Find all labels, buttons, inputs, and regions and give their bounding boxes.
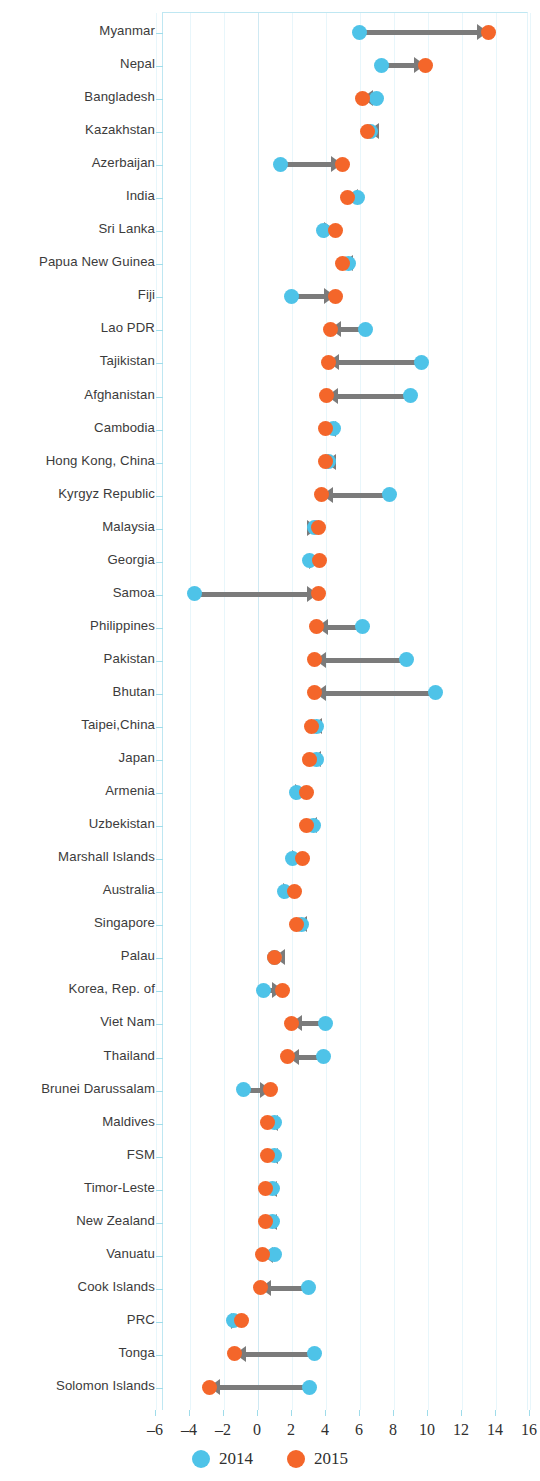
data-point-2015[interactable]: [302, 752, 317, 767]
category-label-afghanistan: Afghanistan: [84, 387, 155, 402]
data-point-2015[interactable]: [260, 1115, 275, 1130]
x-axis-tick-14: [495, 1410, 496, 1416]
data-point-2015[interactable]: [284, 1016, 299, 1031]
data-point-2015[interactable]: [311, 586, 326, 601]
x-axis-tick-4: [325, 1410, 326, 1416]
change-connector: [243, 1352, 315, 1357]
category-label-solomon-islands: Solomon Islands: [56, 1378, 155, 1393]
change-connector: [323, 691, 436, 696]
category-tick: [156, 132, 163, 133]
data-point-2014[interactable]: [352, 25, 367, 40]
category-tick: [156, 694, 163, 695]
x-axis-tick-16: [529, 1410, 530, 1416]
data-point-2015[interactable]: [323, 322, 338, 337]
data-point-2014[interactable]: [403, 388, 418, 403]
category-tick: [156, 1024, 163, 1025]
category-label-viet-nam: Viet Nam: [100, 1014, 155, 1029]
data-point-2015[interactable]: [318, 454, 333, 469]
category-label-myanmar: Myanmar: [99, 23, 155, 38]
x-axis-tick-12: [461, 1410, 462, 1416]
data-point-2015[interactable]: [275, 983, 290, 998]
category-label-azerbaijan: Azerbaijan: [92, 155, 155, 170]
category-tick: [156, 991, 163, 992]
category-tick: [156, 1256, 163, 1257]
data-point-2014[interactable]: [369, 91, 384, 106]
data-point-2014[interactable]: [236, 1082, 251, 1097]
data-point-2015[interactable]: [328, 289, 343, 304]
data-point-2015[interactable]: [360, 124, 375, 139]
legend-item-2014[interactable]: 2014: [192, 1449, 253, 1469]
data-point-2014[interactable]: [302, 1380, 317, 1395]
category-label-brunei-darussalam: Brunei Darussalam: [41, 1081, 155, 1096]
category-tick: [156, 925, 163, 926]
category-tick: [156, 330, 163, 331]
data-point-2015[interactable]: [287, 884, 302, 899]
data-point-2015[interactable]: [311, 520, 326, 535]
change-connector: [194, 592, 310, 597]
category-label-vanuatu: Vanuatu: [106, 1246, 155, 1261]
category-label-kazakhstan: Kazakhstan: [85, 122, 155, 137]
legend-item-2015[interactable]: 2015: [287, 1449, 348, 1469]
category-label-uzbekistan: Uzbekistan: [89, 816, 155, 831]
legend-swatch-2014: [192, 1450, 210, 1468]
category-label-lao-pdr: Lao PDR: [101, 320, 155, 335]
gridline-x-16: [530, 13, 531, 1410]
change-connector: [336, 360, 422, 365]
category-label-taipei-china: Taipei,China: [81, 717, 155, 732]
data-point-2014[interactable]: [301, 1280, 316, 1295]
category-tick: [156, 463, 163, 464]
category-label-georgia: Georgia: [107, 552, 155, 567]
data-point-2015[interactable]: [481, 25, 496, 40]
data-point-2015[interactable]: [289, 917, 304, 932]
category-tick: [156, 496, 163, 497]
data-point-2015[interactable]: [299, 785, 314, 800]
category-tick: [156, 1058, 163, 1059]
gridline-x-2: [292, 13, 293, 1410]
data-point-2014[interactable]: [273, 157, 288, 172]
category-tick: [156, 892, 163, 893]
category-label-marshall-islands: Marshall Islands: [58, 849, 155, 864]
data-point-2015[interactable]: [260, 1148, 275, 1163]
data-point-2015[interactable]: [318, 421, 333, 436]
category-tick: [156, 562, 163, 563]
category-label-cook-islands: Cook Islands: [78, 1279, 155, 1294]
data-point-2015[interactable]: [335, 157, 350, 172]
data-point-2015[interactable]: [418, 58, 433, 73]
category-tick: [156, 760, 163, 761]
data-point-2014[interactable]: [187, 586, 202, 601]
x-axis-tick--6: [155, 1410, 156, 1416]
category-label-samoa: Samoa: [113, 585, 155, 600]
data-point-2015[interactable]: [202, 1380, 217, 1395]
category-tick: [156, 165, 163, 166]
data-point-2015[interactable]: [299, 818, 314, 833]
change-connector: [359, 30, 480, 35]
category-label-maldives: Maldives: [102, 1114, 155, 1129]
chart-legend: 20142015: [0, 1449, 540, 1469]
data-point-2015[interactable]: [340, 190, 355, 205]
gridline-x-0: [258, 13, 259, 1410]
category-label-fiji: Fiji: [138, 287, 155, 302]
data-point-2015[interactable]: [321, 355, 336, 370]
category-tick: [156, 198, 163, 199]
data-point-2015[interactable]: [255, 1247, 270, 1262]
x-axis-tick-8: [393, 1410, 394, 1416]
gridline-x--2: [224, 13, 225, 1410]
data-point-2014[interactable]: [316, 1049, 331, 1064]
category-tick: [156, 1223, 163, 1224]
data-point-2014[interactable]: [284, 289, 299, 304]
data-point-2015[interactable]: [328, 223, 343, 238]
x-axis-tick-0: [257, 1410, 258, 1416]
category-label-papua-new-guinea: Papua New Guinea: [39, 254, 155, 269]
data-point-2015[interactable]: [304, 719, 319, 734]
data-point-2015[interactable]: [267, 950, 282, 965]
data-point-2014[interactable]: [318, 1016, 333, 1031]
category-tick: [156, 793, 163, 794]
data-point-2015[interactable]: [355, 91, 370, 106]
category-label-singapore: Singapore: [94, 915, 155, 930]
data-point-2014[interactable]: [374, 58, 389, 73]
category-label-armenia: Armenia: [105, 783, 155, 798]
category-tick: [156, 958, 163, 959]
data-point-2015[interactable]: [280, 1049, 295, 1064]
category-label-palau: Palau: [121, 948, 155, 963]
data-point-2015[interactable]: [335, 256, 350, 271]
